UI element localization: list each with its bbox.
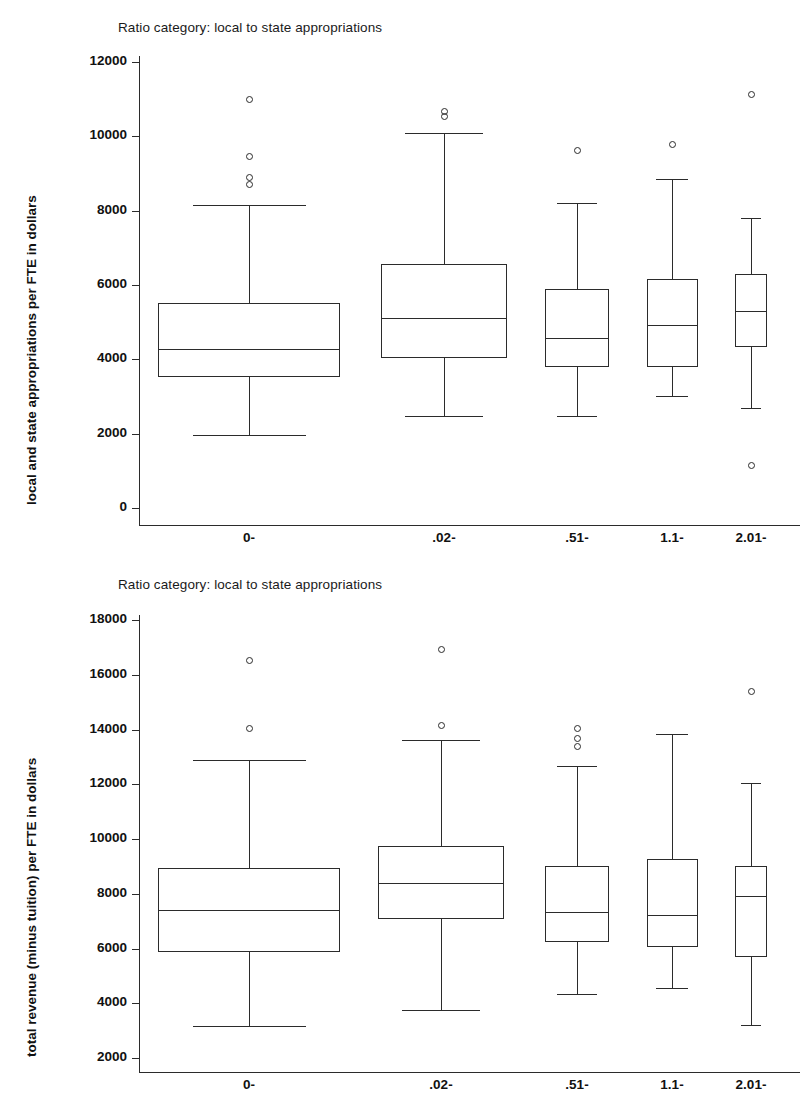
- box-whisker-cap-lower: [741, 408, 761, 409]
- y-axis-tick: [132, 434, 139, 435]
- outlier-point: [246, 725, 253, 732]
- box-median-line: [545, 338, 609, 339]
- y-axis-tick-label: 6000: [47, 276, 127, 291]
- box-whisker-cap-lower: [402, 1010, 480, 1011]
- box-median-line: [545, 912, 609, 913]
- y-axis-tick: [132, 508, 139, 509]
- x-axis-tick-label: 2.01-: [706, 530, 796, 545]
- y-axis-tick-label: 8000: [47, 885, 127, 900]
- box-whisker-cap-lower: [656, 396, 688, 397]
- x-axis-tick-label: 2.01-: [706, 1077, 796, 1092]
- box-median-line: [735, 311, 767, 312]
- box-whisker-upper: [577, 203, 578, 289]
- y-axis-tick: [132, 949, 139, 950]
- x-axis-tick-label: 0-: [204, 1077, 294, 1092]
- y-axis-tick-label: 2000: [47, 1049, 127, 1064]
- box-whisker-cap-upper: [656, 734, 688, 735]
- y-axis-tick: [132, 620, 139, 621]
- box-whisker-upper: [672, 179, 673, 279]
- box-whisker-cap-upper: [557, 766, 597, 767]
- box-whisker-cap-upper: [405, 133, 483, 134]
- y-axis-tick-label: 10000: [47, 127, 127, 142]
- box-whisker-cap-upper: [741, 783, 761, 784]
- y-axis-tick-label: 10000: [47, 830, 127, 845]
- box-whisker-cap-lower: [741, 1025, 761, 1026]
- box-whisker-cap-upper: [741, 218, 761, 219]
- x-axis-tick-label: .51-: [532, 1077, 622, 1092]
- x-axis-tick-label: 1.1-: [627, 1077, 717, 1092]
- x-axis-line: [139, 525, 800, 526]
- box-whisker-cap-lower: [557, 416, 597, 417]
- box-whisker-cap-lower: [193, 435, 306, 436]
- outlier-point: [438, 722, 445, 729]
- outlier-point: [748, 462, 755, 469]
- box-iqr: [647, 279, 698, 367]
- box-whisker-cap-lower: [656, 988, 688, 989]
- box-iqr: [381, 264, 507, 358]
- y-axis-tick: [132, 285, 139, 286]
- outlier-point: [246, 657, 253, 664]
- box-whisker-cap-lower: [557, 994, 597, 995]
- outlier-point: [246, 153, 253, 160]
- box-whisker-cap-upper: [557, 203, 597, 204]
- y-axis-tick-label: 2000: [47, 425, 127, 440]
- box-iqr: [647, 859, 698, 947]
- outlier-point: [246, 174, 253, 181]
- y-axis-tick-label: 16000: [47, 666, 127, 681]
- box-whisker-lower: [577, 367, 578, 416]
- y-axis-tick-label: 6000: [47, 940, 127, 955]
- boxplot-panel-bottom: Ratio category: local to state appropria…: [0, 557, 804, 1114]
- y-axis-tick: [132, 136, 139, 137]
- x-axis-tick-label: 0-: [204, 530, 294, 545]
- y-axis-tick-label: 14000: [47, 721, 127, 736]
- box-whisker-cap-lower: [193, 1026, 306, 1027]
- box-whisker-lower: [441, 919, 442, 1010]
- box-iqr: [735, 866, 767, 957]
- y-axis-tick: [132, 730, 139, 731]
- box-median-line: [158, 349, 340, 350]
- box-median-line: [647, 915, 698, 916]
- outlier-point: [574, 743, 581, 750]
- y-axis-tick: [132, 62, 139, 63]
- box-iqr: [158, 303, 340, 377]
- box-median-line: [158, 910, 340, 911]
- box-whisker-lower: [672, 947, 673, 988]
- box-whisker-lower: [249, 377, 250, 435]
- box-median-line: [381, 318, 507, 319]
- box-whisker-lower: [751, 347, 752, 408]
- y-axis-line: [139, 56, 140, 525]
- box-whisker-upper: [751, 783, 752, 866]
- plot-area-top: 1200010000800060004000200000-.02-.51-1.1…: [0, 0, 804, 557]
- y-axis-tick-label: 8000: [47, 202, 127, 217]
- box-whisker-lower: [249, 952, 250, 1026]
- box-whisker-upper: [672, 734, 673, 859]
- outlier-point: [574, 735, 581, 742]
- y-axis-tick: [132, 784, 139, 785]
- x-axis-tick-label: .02-: [396, 1077, 486, 1092]
- box-whisker-lower: [751, 957, 752, 1025]
- y-axis-tick-label: 12000: [47, 775, 127, 790]
- y-axis-tick: [132, 894, 139, 895]
- outlier-point: [748, 688, 755, 695]
- box-whisker-lower: [672, 367, 673, 396]
- outlier-point: [669, 141, 676, 148]
- box-whisker-lower: [444, 358, 445, 416]
- box-whisker-upper: [444, 133, 445, 264]
- y-axis-tick-label: 0: [47, 499, 127, 514]
- box-median-line: [735, 896, 767, 897]
- boxplot-panel-top: Ratio category: local to state appropria…: [0, 0, 804, 557]
- outlier-point: [574, 147, 581, 154]
- y-axis-tick-label: 4000: [47, 994, 127, 1009]
- y-axis-tick-label: 18000: [47, 611, 127, 626]
- box-iqr: [545, 866, 609, 942]
- box-whisker-cap-upper: [656, 179, 688, 180]
- x-axis-tick-label: .02-: [399, 530, 489, 545]
- y-axis-tick-label: 4000: [47, 350, 127, 365]
- box-whisker-cap-upper: [402, 740, 480, 741]
- outlier-point: [574, 725, 581, 732]
- box-whisker-cap-lower: [405, 416, 483, 417]
- x-axis-tick-label: .51-: [532, 530, 622, 545]
- plot-area-bottom: 1800016000140001200010000800060004000200…: [0, 557, 804, 1114]
- box-whisker-upper: [577, 766, 578, 866]
- y-axis-line: [139, 615, 140, 1072]
